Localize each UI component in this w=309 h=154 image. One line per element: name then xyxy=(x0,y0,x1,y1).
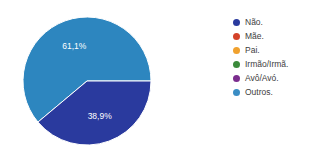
legend-item-label: Avô/Avó. xyxy=(245,71,279,85)
legend-color-swatch-icon xyxy=(233,75,240,82)
legend-item-nao[interactable]: Não. xyxy=(233,15,309,29)
legend-color-swatch-icon xyxy=(233,89,240,96)
legend-color-swatch-icon xyxy=(233,61,240,68)
pie-svg: 61,1% 38,9% xyxy=(0,0,220,154)
legend-item-label: Irmão/Irmã. xyxy=(245,57,288,71)
legend-color-swatch-icon xyxy=(233,33,240,40)
legend-item-outros[interactable]: Outros. xyxy=(233,85,309,99)
pie-slice-label-nao: 38,9% xyxy=(88,111,113,121)
legend-item-mae[interactable]: Mãe. xyxy=(233,29,309,43)
legend-item-label: Pai. xyxy=(245,43,260,57)
chart-legend: Não. Mãe. Pai. Irmão/Irmã. Avô/Avó. Outr… xyxy=(233,15,309,99)
pie-slice-label-outros: 61,1% xyxy=(62,41,87,51)
legend-color-swatch-icon xyxy=(233,47,240,54)
pie-plot-area: 61,1% 38,9% xyxy=(0,0,220,154)
legend-color-swatch-icon xyxy=(233,19,240,26)
legend-item-pai[interactable]: Pai. xyxy=(233,43,309,57)
pie-slices xyxy=(23,17,151,145)
legend-item-label: Mãe. xyxy=(245,29,264,43)
legend-item-avo-avo[interactable]: Avô/Avó. xyxy=(233,71,309,85)
legend-item-label: Outros. xyxy=(245,85,273,99)
pie-chart-figure: 61,1% 38,9% Não. Mãe. Pai. Irmão/Irmã. A… xyxy=(0,0,309,154)
legend-item-label: Não. xyxy=(245,15,263,29)
legend-item-irmao-irma[interactable]: Irmão/Irmã. xyxy=(233,57,309,71)
